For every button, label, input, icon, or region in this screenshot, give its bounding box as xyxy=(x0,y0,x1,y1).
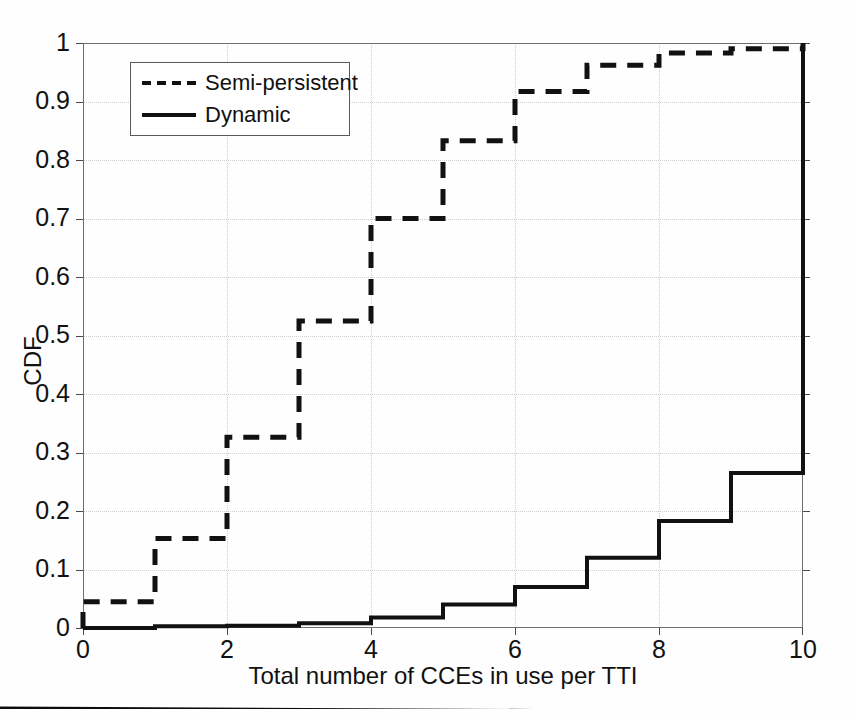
y-tick-label-09: 0.9 xyxy=(8,88,70,113)
x-tick-mark-2 xyxy=(227,628,228,635)
x-tick-label-6: 6 xyxy=(475,637,555,662)
x-tick-label-0: 0 xyxy=(43,637,123,662)
y-tick-mark-08 xyxy=(76,160,83,161)
x-tick-label-10: 10 xyxy=(763,637,843,662)
y-tick-label-06: 0.6 xyxy=(8,264,70,289)
y-tick-mark-1 xyxy=(76,43,83,44)
y-tick-mark-05 xyxy=(76,336,83,337)
y-tick-mark-right-01 xyxy=(803,570,810,571)
y-tick-label-02: 0.2 xyxy=(8,498,70,523)
x-tick-mark-6 xyxy=(515,628,516,635)
y-tick-mark-02 xyxy=(76,511,83,512)
legend: Semi-persistent Dynamic xyxy=(130,62,350,136)
y-tick-mark-right-02 xyxy=(803,511,810,512)
y-tick-mark-06 xyxy=(76,277,83,278)
x-tick-mark-10 xyxy=(802,628,803,635)
legend-item-semi-persistent: Semi-persistent xyxy=(141,68,358,98)
y-tick-mark-09 xyxy=(76,102,83,103)
x-axis-title: Total number of CCEs in use per TTI xyxy=(83,662,803,690)
x-tick-label-8: 8 xyxy=(619,637,699,662)
x-tick-label-2: 2 xyxy=(187,637,267,662)
y-tick-mark-03 xyxy=(76,453,83,454)
y-tick-mark-04 xyxy=(76,394,83,395)
y-tick-label-05: 0.5 xyxy=(8,322,70,347)
y-tick-mark-01 xyxy=(76,570,83,571)
x-tick-mark-4 xyxy=(371,628,372,635)
scan-artifact-line-icon xyxy=(0,705,856,709)
legend-label-dynamic: Dynamic xyxy=(205,104,291,126)
y-tick-mark-07 xyxy=(76,219,83,220)
cdf-figure: CDF Total number of CCEs in use per TTI … xyxy=(0,0,856,721)
legend-label-semi-persistent: Semi-persistent xyxy=(205,72,358,94)
y-tick-label-08: 0.8 xyxy=(8,147,70,172)
y-tick-label-01: 0.1 xyxy=(8,556,70,581)
dashed-line-sample-icon xyxy=(141,76,197,90)
y-tick-label-07: 0.7 xyxy=(8,205,70,230)
x-tick-label-4: 4 xyxy=(331,637,411,662)
y-tick-mark-0 xyxy=(76,628,83,629)
x-tick-mark-8 xyxy=(659,628,660,635)
solid-line-sample-icon xyxy=(141,108,197,122)
y-tick-label-04: 0.4 xyxy=(8,381,70,406)
y-tick-label-03: 0.3 xyxy=(8,439,70,464)
y-tick-label-1: 1 xyxy=(8,30,70,55)
scan-artifact-rule xyxy=(0,700,856,709)
legend-item-dynamic: Dynamic xyxy=(141,100,291,130)
